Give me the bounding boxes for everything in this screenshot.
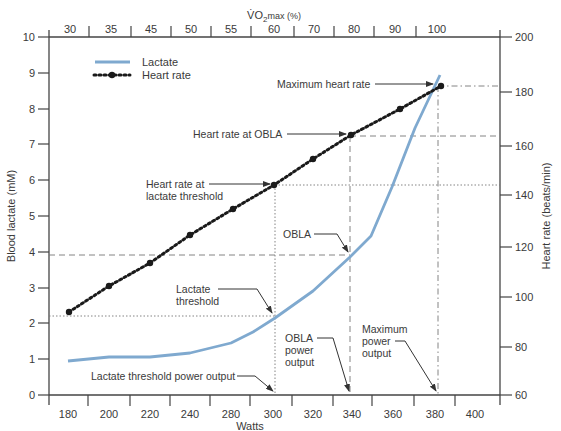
top-tick-label: 55	[225, 23, 237, 35]
y-tick-label: 7	[29, 138, 35, 150]
lactate-heart-rate-chart: 180 200 220 240 280 300 320 340 360 380 …	[0, 0, 561, 431]
top-axis-label: V̇O2max (%)	[247, 9, 301, 24]
x-tick-label: 340	[343, 408, 361, 420]
y2-axis-label: Heart rate (beats/min)	[540, 163, 552, 270]
annotation-max-power: Maximum	[362, 323, 408, 335]
x-tick-label: 200	[100, 408, 118, 420]
y-tick-label: 3	[29, 282, 35, 294]
annotation-max-hr: Maximum heart rate	[277, 78, 371, 90]
annotation-lt-line2: threshold	[176, 295, 219, 307]
x-tick-labels: 180 200 220 240 280 300 320 340 360 380 …	[59, 408, 484, 420]
annotation-obla-power-line2: power	[285, 344, 314, 356]
annotation-hr-obla: Heart rate at OBLA	[193, 128, 282, 140]
y2-tick-label: 160	[515, 140, 533, 152]
y-tick-label: 9	[29, 67, 35, 79]
legend-lactate-label: Lactate	[142, 56, 178, 68]
annotation-max-power-line2: power	[362, 335, 391, 347]
annotations: Maximum heart rate Heart rate at OBLA He…	[91, 78, 436, 391]
top-tick-label: 35	[105, 23, 117, 35]
x-tick-label: 360	[384, 408, 402, 420]
y-tick-label: 1	[29, 353, 35, 365]
annotation-obla: OBLA	[283, 228, 311, 240]
x-tick-label: 300	[264, 408, 282, 420]
top-tick-label: 50	[185, 23, 197, 35]
x-tick-label: 320	[304, 408, 322, 420]
annotation-max-power-line3: output	[362, 347, 391, 359]
annotation-obla-power-line3: output	[285, 356, 314, 368]
y2-tick-label: 140	[515, 189, 533, 201]
x-axis-label: Watts	[236, 420, 264, 431]
left-tick-marks	[38, 37, 49, 395]
bottom-tick-marks	[88, 395, 455, 406]
legend: Lactate Heart rate	[94, 56, 191, 81]
right-tick-marks	[500, 37, 512, 395]
y2-tick-label: 60	[515, 389, 527, 401]
annotation-hr-lt-line2: lactate threshold	[146, 190, 223, 202]
annotation-lt-power: Lactate threshold power output	[91, 370, 235, 382]
x-tick-label: 380	[426, 408, 444, 420]
heart-rate-line	[69, 86, 441, 312]
x-tick-label: 240	[181, 408, 199, 420]
x-tick-label: 280	[222, 408, 240, 420]
y2-tick-label: 100	[515, 291, 533, 303]
y-tick-label: 0	[29, 389, 35, 401]
y2-tick-labels: 60 80 100 120 140 160 180 200	[515, 31, 533, 401]
y-tick-label: 2	[29, 317, 35, 329]
top-tick-label: 90	[389, 23, 401, 35]
top-tick-label: 100	[428, 23, 446, 35]
legend-hr-label: Heart rate	[142, 69, 191, 81]
y-tick-label: 10	[23, 31, 35, 43]
top-tick-label: 45	[145, 23, 157, 35]
top-tick-label: 70	[308, 23, 320, 35]
y2-tick-label: 80	[515, 341, 527, 353]
top-tick-label: 60	[268, 23, 280, 35]
annotation-lt: Lactate	[176, 283, 211, 295]
top-tick-marks	[89, 26, 416, 37]
y-tick-labels: 0 1 2 3 4 5 6 7 8 9 10	[23, 31, 35, 401]
annotation-obla-power: OBLA	[285, 332, 313, 344]
annotation-hr-lt: Heart rate at	[146, 178, 204, 190]
x-tick-label: 220	[141, 408, 159, 420]
top-tick-label: 80	[348, 23, 360, 35]
x-tick-label: 180	[59, 408, 77, 420]
y-axis-label: Blood lactate (mM)	[5, 170, 17, 262]
x-tick-label: 400	[466, 408, 484, 420]
axes	[49, 30, 500, 405]
y2-tick-label: 180	[515, 86, 533, 98]
y-tick-label: 6	[29, 174, 35, 186]
y-tick-label: 4	[29, 246, 35, 258]
y2-tick-label: 200	[515, 31, 533, 43]
y2-tick-label: 120	[515, 241, 533, 253]
top-tick-labels: 30 35 45 50 55 60 70 80 90 100	[64, 23, 446, 35]
y-tick-label: 5	[29, 210, 35, 222]
y-tick-label: 8	[29, 103, 35, 115]
top-tick-label: 30	[64, 23, 76, 35]
